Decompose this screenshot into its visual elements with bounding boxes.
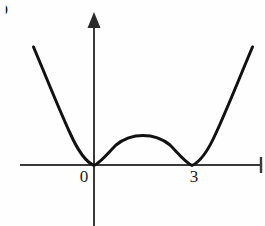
x-tick-label-0: 0: [74, 168, 94, 185]
x-tick-label-3: 3: [184, 168, 204, 185]
quartic-curve: [34, 47, 253, 166]
graph-canvas: [0, 0, 265, 226]
y-axis-arrow-icon: [88, 12, 101, 28]
figure-container: b 0 3: [0, 0, 265, 226]
